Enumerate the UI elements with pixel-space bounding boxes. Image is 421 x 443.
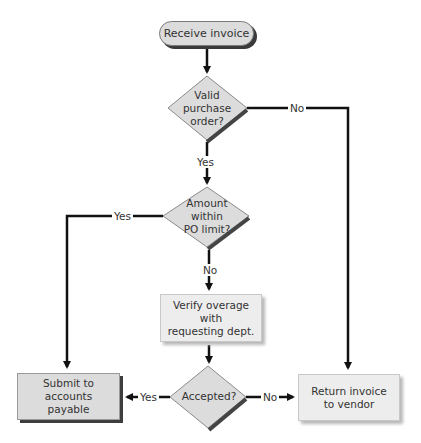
start-node-receive-invoice: Receive invoice — [159, 21, 254, 46]
edge-label-accepted-yes: Yes — [138, 391, 159, 403]
process-verify-overage: Verify overage with requesting dept. — [160, 294, 262, 342]
edge-label-within-limit-yes: Yes — [112, 210, 133, 222]
decision-within-limit-line-1: Amount — [171, 197, 243, 210]
process-return-invoice: Return invoice to vendor — [298, 374, 400, 421]
start-node-label: Receive invoice — [164, 27, 250, 40]
edge-label-within-limit-no: No — [201, 264, 219, 276]
decision-accepted-text: Accepted? — [173, 390, 245, 403]
decision-valid-po-text: Valid purchase order? — [172, 89, 242, 128]
edge-valid-po-no — [247, 108, 348, 368]
process-verify-line-2: requesting dept. — [161, 325, 261, 338]
process-submit-line-1: Submit to accounts — [18, 377, 119, 403]
decision-within-limit-text: Amount within PO limit? — [171, 197, 243, 236]
process-submit-line-2: payable — [18, 403, 119, 416]
process-submit-accounts-payable: Submit to accounts payable — [17, 373, 120, 420]
process-verify-line-1: Verify overage with — [161, 299, 261, 325]
edge-label-accepted-no: No — [261, 391, 279, 403]
decision-within-limit-line-3: PO limit? — [171, 223, 243, 236]
decision-valid-po-line-1: Valid — [172, 89, 242, 102]
decision-within-limit-line-2: within — [171, 210, 243, 223]
edge-within-limit-yes — [67, 216, 163, 367]
process-return-line-1: Return invoice — [311, 385, 387, 398]
edge-label-valid-po-yes: Yes — [195, 156, 216, 168]
edge-label-valid-po-no: No — [288, 102, 306, 114]
decision-valid-po-line-3: order? — [172, 115, 242, 128]
process-return-line-2: to vendor — [311, 398, 387, 411]
decision-valid-po-line-2: purchase — [172, 102, 242, 115]
decision-accepted-label: Accepted? — [173, 390, 245, 403]
